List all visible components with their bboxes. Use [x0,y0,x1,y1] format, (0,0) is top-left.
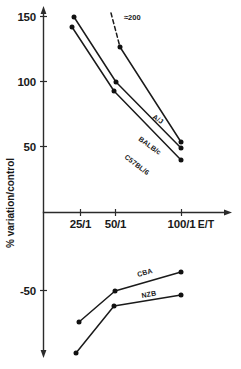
series-cba-point-50 [113,289,118,294]
x-axis-title: E/T [198,218,215,230]
series-cba-point-25 [77,320,82,325]
y-axis-title: % variation/control [5,158,16,248]
chart-background [0,0,241,369]
series-balbc-point-50 [114,80,119,85]
series-nzb-point-25 [74,351,79,356]
y-tick-label-150: 150 [17,11,36,23]
series-c57bl6-point-100 [179,158,184,163]
series-c57bl6-point-50 [112,89,117,94]
series-cba-point-100 [179,270,184,275]
x-tick-label-25: 25/1 [70,218,92,230]
series-c57bl6-point-25 [70,25,75,30]
series-nzb-point-100 [179,293,184,298]
series-aj-point-100 [179,140,184,145]
y-tick-label-100: 100 [17,76,36,88]
strain-cytotoxicity-chart: 150 100 50 -50 % variation/control 25/1 … [0,0,241,369]
series-aj-point-50 [118,45,123,50]
y-tick-label-50: 50 [24,141,36,153]
series-balbc-point-100 [179,146,184,151]
series-nzb-point-50 [112,304,117,309]
series-balbc-point-25 [72,15,77,20]
y-tick-label-minus-50: -50 [20,285,36,297]
x-tick-label-100: 100/1 [168,218,197,230]
x-tick-label-50: 50/1 [105,218,127,230]
offscale-annotation: ≈200 [124,13,141,22]
